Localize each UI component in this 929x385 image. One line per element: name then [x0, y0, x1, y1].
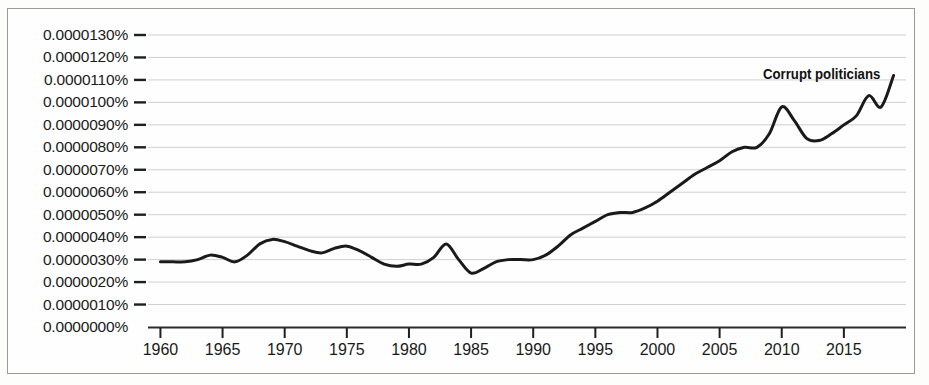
y-axis-tick-label: 0.0000120%	[8, 48, 128, 66]
x-axis-tick-label: 1960	[125, 341, 195, 359]
x-axis-tick-label: 1980	[374, 341, 444, 359]
x-axis-tick-label: 1970	[250, 341, 320, 359]
x-axis-tick-label: 1965	[188, 341, 258, 359]
y-axis-tick-label: 0.0000010%	[8, 296, 128, 314]
x-axis-tick-label: 1990	[498, 341, 568, 359]
line-chart-plot	[0, 0, 929, 385]
y-axis-tick-label: 0.0000130%	[8, 26, 128, 44]
y-axis-tick-label: 0.0000070%	[8, 161, 128, 179]
x-axis-tick-label: 2005	[685, 341, 755, 359]
y-axis-tick-marks	[134, 35, 146, 305]
series-annotation-label: Corrupt politicians	[763, 65, 880, 82]
y-axis-tick-label: 0.0000030%	[8, 251, 128, 269]
x-axis-tick-label: 1995	[560, 341, 630, 359]
y-axis-tick-label: 0.0000080%	[8, 138, 128, 156]
data-series-line	[160, 75, 893, 273]
x-axis-tick-label: 1975	[312, 341, 382, 359]
y-axis-tick-label: 0.0000100%	[8, 93, 128, 111]
x-axis-tick-label: 2015	[809, 341, 879, 359]
y-axis-tick-label: 0.0000040%	[8, 228, 128, 246]
y-axis-tick-label: 0.0000020%	[8, 273, 128, 291]
y-axis-tick-label: 0.0000090%	[8, 116, 128, 134]
y-axis-tick-label: 0.0000050%	[8, 206, 128, 224]
x-axis-tick-marks	[160, 328, 843, 338]
x-axis-tick-label: 2000	[622, 341, 692, 359]
x-axis-tick-label: 1985	[436, 341, 506, 359]
y-axis-tick-label: 0.0000000%	[8, 318, 128, 336]
y-axis-tick-label: 0.0000060%	[8, 183, 128, 201]
y-axis-tick-label: 0.0000110%	[8, 71, 128, 89]
chart-figure: 0.0000130%0.0000120%0.0000110%0.0000100%…	[0, 0, 929, 385]
x-axis-tick-label: 2010	[747, 341, 817, 359]
